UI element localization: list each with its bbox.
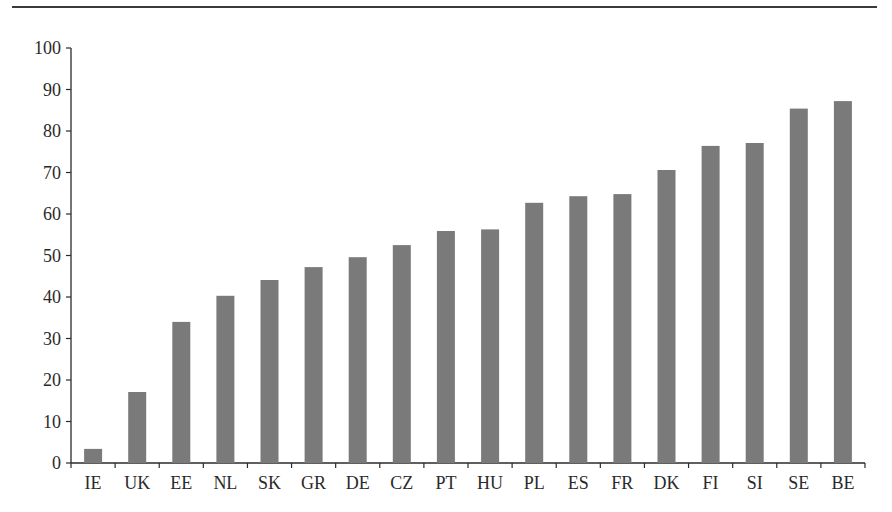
x-category-label: SE <box>788 473 809 493</box>
x-category-label: BE <box>831 473 854 493</box>
bar-sk <box>261 280 279 463</box>
x-axis: IEUKEENLSKGRDECZPTHUPLESFRDKFISISEBE <box>71 463 865 493</box>
bar-cz <box>393 245 411 463</box>
bar-pl <box>525 203 543 463</box>
bar-si <box>746 143 764 463</box>
y-tick-label: 60 <box>43 204 61 224</box>
bar-es <box>569 196 587 463</box>
x-category-label: NL <box>213 473 237 493</box>
bars-group <box>84 101 852 463</box>
x-category-label: FR <box>611 473 633 493</box>
y-tick-label: 50 <box>43 246 61 266</box>
y-axis: 0102030405060708090100 <box>34 38 71 473</box>
x-category-label: CZ <box>390 473 413 493</box>
x-category-label: UK <box>124 473 150 493</box>
x-category-label: IE <box>85 473 102 493</box>
bar-nl <box>216 296 234 463</box>
y-tick-label: 40 <box>43 287 61 307</box>
y-tick-label: 90 <box>43 80 61 100</box>
bar-be <box>834 101 852 463</box>
bar-ee <box>172 322 190 463</box>
bar-hu <box>481 229 499 463</box>
y-tick-label: 80 <box>43 121 61 141</box>
bar-uk <box>128 392 146 463</box>
x-category-label: PL <box>524 473 545 493</box>
bar-chart: 0102030405060708090100 IEUKEENLSKGRDECZP… <box>0 0 892 512</box>
y-tick-label: 0 <box>52 453 61 473</box>
x-category-label: SI <box>747 473 763 493</box>
y-tick-label: 70 <box>43 163 61 183</box>
x-category-label: ES <box>568 473 589 493</box>
x-category-label: DE <box>346 473 370 493</box>
x-category-label: DK <box>654 473 680 493</box>
x-category-label: EE <box>170 473 192 493</box>
y-tick-label: 20 <box>43 370 61 390</box>
x-category-label: FI <box>703 473 719 493</box>
bar-pt <box>437 231 455 463</box>
x-category-label: SK <box>258 473 281 493</box>
bar-gr <box>305 267 323 463</box>
bar-se <box>790 109 808 463</box>
bar-de <box>349 257 367 463</box>
x-category-label: PT <box>435 473 456 493</box>
y-tick-label: 100 <box>34 38 61 58</box>
bar-dk <box>658 170 676 463</box>
y-tick-label: 10 <box>43 412 61 432</box>
x-category-label: GR <box>301 473 326 493</box>
bar-fi <box>702 146 720 463</box>
x-category-label: HU <box>477 473 503 493</box>
bar-ie <box>84 449 102 463</box>
y-tick-label: 30 <box>43 329 61 349</box>
bar-fr <box>613 194 631 463</box>
